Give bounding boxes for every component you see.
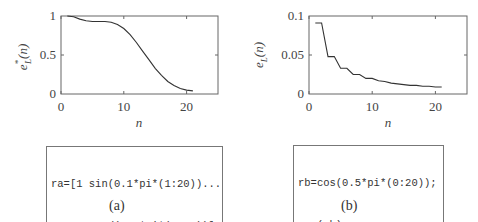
code-box-b: rb=cos(0.5*pi*(0:20)); mse(rb); [293,145,444,222]
xlabel-a: n [136,115,143,130]
ytick-b-1: 0.05 [281,47,304,62]
ytick-b-2: 0.1 [288,8,304,23]
ylabel-b: eL(n) [251,42,269,68]
plot-a: 0 0.5 1 0 10 20 n e*L(n) [0,0,239,130]
ytick-b-0: 0 [298,86,305,101]
xtick-a-0: 0 [58,99,65,114]
code-box-a: ra=[1 sin(0.1*pi*(1:20))... ./(0.1*pi*(1… [46,146,223,222]
curve-a [67,16,193,91]
ytick-a-0: 0 [50,86,57,101]
xlabel-b: n [385,115,392,130]
xtick-b-0: 0 [306,99,313,114]
xtick-b-1: 10 [366,99,379,114]
code-line: ./(0.1*pi*(1:20))]; [51,219,218,222]
plot-a-frame [61,16,218,94]
xtick-a-1: 10 [117,99,130,114]
ytick-a-1: 0.5 [40,47,56,62]
svg-text:eL(n): eL(n) [251,42,269,68]
svg-text:e*L(n): e*L(n) [13,44,33,70]
code-line: mse(rb); [298,218,439,222]
ytick-a-2: 1 [50,8,57,23]
plot-b: 0 0.05 0.1 0 10 20 n eL(n) [239,0,478,130]
xtick-a-2: 20 [180,99,193,114]
ylabel-a: e*L(n) [13,44,33,70]
panel-b: 0 0.05 0.1 0 10 20 n eL(n) rb=cos(0.5*pi… [239,0,478,222]
caption-b: (b) [341,198,357,214]
curve-b [315,23,441,87]
panel-a: 0 0.5 1 0 10 20 n e*L(n) ra=[1 sin(0.1*p… [0,0,239,222]
code-line: ra=[1 sin(0.1*pi*(1:20))... [51,177,218,191]
code-line: rb=cos(0.5*pi*(0:20)); [298,176,439,190]
caption-a: (a) [109,198,125,214]
xtick-b-2: 20 [429,99,442,114]
